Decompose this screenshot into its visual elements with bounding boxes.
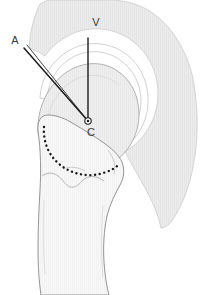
center-point-dot bbox=[87, 120, 90, 123]
anatomy-diagram-canvas: A V C bbox=[0, 0, 200, 295]
center-point-group bbox=[85, 118, 91, 124]
anatomy-figure: A V C bbox=[0, 0, 200, 295]
label-vertical-v: V bbox=[92, 16, 100, 28]
label-apex-a: A bbox=[11, 34, 19, 46]
label-center-c: C bbox=[87, 126, 95, 138]
